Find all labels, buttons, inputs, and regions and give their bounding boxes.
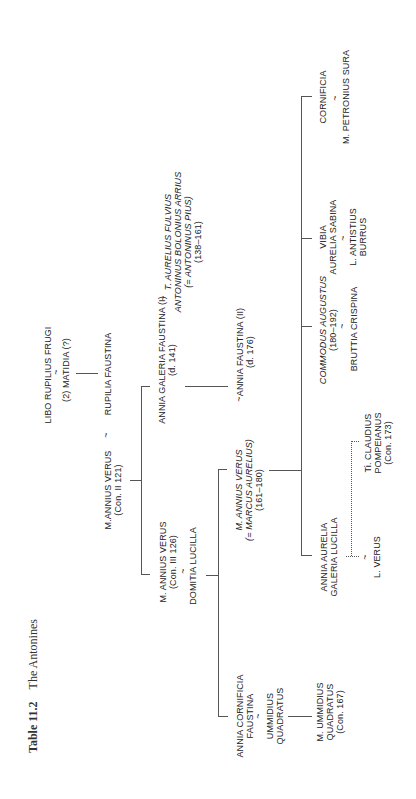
branch-line — [301, 96, 312, 97]
marriage-symbol: ~ — [338, 323, 347, 328]
node-annia-aurelia-galeria-lucilla: ANNIA AURELIA GALERIA LUCILLA — [319, 517, 339, 596]
marriage-symbol: ~ — [361, 554, 370, 559]
dotted-marriage-line — [346, 556, 359, 557]
branch-line — [141, 386, 150, 387]
descent-line — [130, 480, 141, 481]
descent-line — [76, 373, 98, 374]
node-bruttia-crispina: BRUTTIA CRISPINA — [349, 287, 359, 372]
node-libo-rupilius-frugi: LIBO RUPILIUS FRUGI — [43, 327, 53, 424]
descent-line — [269, 470, 301, 471]
marriage-symbol: ~ — [179, 568, 188, 573]
node-matidia: (2) MATIDIA (?) — [61, 338, 71, 402]
node-domitia-lucilla: DOMITIA LUCILLA — [188, 527, 198, 605]
branch-line — [301, 238, 312, 239]
node-rupilia-faustina: RUPILIA FAUSTINA — [103, 333, 113, 416]
dotted-marriage-line — [351, 441, 352, 556]
node-ummidius-quadratus: UMMIDIUS QUADRATUS — [265, 688, 285, 745]
marriage-symbol: ~ — [102, 432, 111, 437]
node-commodus: COMMODUS AUGUSTUS (180–192) — [318, 276, 338, 384]
node-l-verus: L. VERUS — [372, 536, 382, 578]
descent-line — [185, 386, 228, 387]
branch-line — [141, 574, 150, 575]
node-vibia-aurelia-sabina: VIBIA AURELIA SABINA — [318, 200, 338, 275]
node-marcus-aurelius: M. ANNIUS VERUS (= MARCUS AURELIUS) (161… — [234, 439, 264, 541]
node-faustina-2: ANNIA FAUSTINA (II) (d. 176) — [235, 308, 255, 396]
branch-line — [218, 716, 228, 717]
descent-line — [288, 716, 312, 717]
marriage-symbol: ~ — [339, 235, 348, 240]
table-caption: Table 11.2The Antonines — [26, 619, 41, 753]
branch-line — [301, 326, 312, 327]
node-l-antistius-burrus: L. ANTISTIUS BURRUS — [348, 208, 368, 266]
sibling-bracket — [141, 386, 142, 575]
sibling-bracket — [218, 469, 219, 716]
node-m-annius-verus-con3: M. ANNIUS VERUS (Con. III 126) — [158, 521, 178, 602]
branch-line — [218, 469, 227, 470]
node-m-petronius-sura: M. PETRONIUS SURA — [341, 50, 351, 144]
marriage-symbol: ~ — [52, 369, 61, 374]
marriage-symbol: ~ — [254, 713, 263, 718]
genealogy-diagram: Table 11.2The Antonines LIBO RUPILIUS FR… — [0, 0, 416, 799]
branch-line — [301, 555, 312, 556]
node-m-annius-verus-con2: M.ANNIUS VERUS (Con. II 121) — [103, 451, 123, 530]
table-title: The Antonines — [26, 619, 40, 689]
node-faustina-1: ANNIA GALERIA FAUSTINA (I) (d. 141) — [157, 296, 177, 424]
node-antoninus-pius: T. AURELIUS FULVIUS ANTONINUS BOLONIUS A… — [163, 172, 203, 313]
descent-line — [206, 575, 218, 576]
marriage-symbol: ~ — [235, 396, 244, 401]
table-number: Table 11.2 — [26, 701, 40, 753]
node-pompeianus: Ti. CLAUDIUS POMPEIANUS (Con. 173) — [363, 412, 393, 473]
dotted-marriage-line — [351, 441, 359, 442]
node-cornificia: CORNIFICIA — [318, 70, 328, 123]
marriage-symbol: ~ — [331, 95, 340, 100]
node-m-ummidius-quadratus: M. UMMIDIUS QUADRATUS (Con. 167) — [315, 682, 345, 741]
